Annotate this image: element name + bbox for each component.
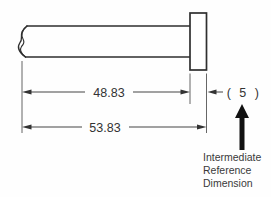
annotation-line-3: Dimension [203,177,253,189]
dim1-value: 48.83 [93,86,124,100]
pin-head [190,13,207,70]
technical-drawing-canvas: 48.83 53.83 ( 5 ) Intermediate Reference… [0,0,271,197]
annotation-line-2: Reference [203,164,252,176]
pin-shaft [19,26,190,57]
ref-dim-arrowhead-left [208,89,217,94]
dim2-value: 53.83 [89,121,120,135]
dim2-arrowhead-right [197,124,207,129]
annotation-label: Intermediate Reference Dimension [203,151,262,189]
dimension-53-83: 53.83 [22,121,207,135]
dim1-arrowhead-left [22,89,32,94]
reference-dimension-5: ( 5 ) [208,86,262,100]
dim1-arrowhead-right [181,89,191,94]
annotation-line-1: Intermediate [203,151,262,163]
break-line-inner [21,26,27,57]
ref-dim-value: ( 5 ) [227,86,262,100]
up-arrow-icon [235,104,249,150]
dim2-arrowhead-left [22,124,32,129]
dimension-48-83: 48.83 [22,86,190,100]
pin-dimension-drawing: 48.83 53.83 ( 5 ) Intermediate Reference… [0,0,271,197]
